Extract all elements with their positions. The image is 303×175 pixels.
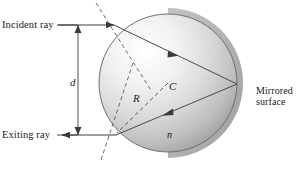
center-C-label: C (169, 80, 176, 92)
optics-ray-diagram-figure: Incident ray Exiting ray Mirrored surfac… (0, 0, 303, 175)
distance-d-label: d (70, 76, 76, 88)
dimension-arrow-top (75, 25, 82, 33)
dimension-arrow-bottom (75, 127, 82, 135)
mirrored-surface-label: Mirrored surface (256, 85, 293, 107)
mirrored-surface-label-line1: Mirrored (256, 85, 293, 96)
incident-ray-label: Incident ray (2, 19, 54, 31)
exiting-ray-label: Exiting ray (2, 129, 50, 141)
index-n-label: n (167, 129, 172, 140)
mirrored-surface-label-line2: surface (256, 96, 286, 107)
radius-R-label: R (133, 92, 140, 104)
